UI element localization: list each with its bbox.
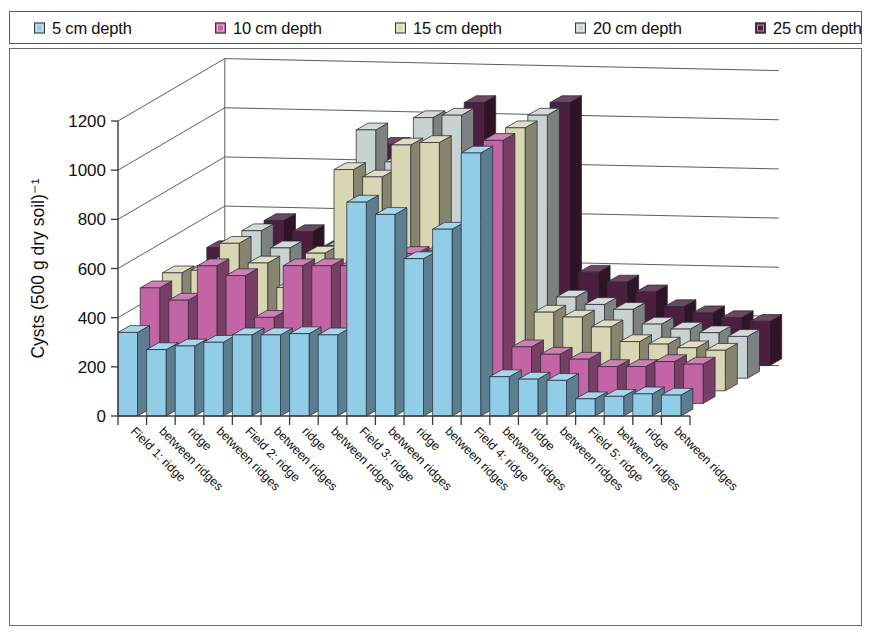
bar-side bbox=[703, 357, 715, 403]
bar-front bbox=[518, 379, 538, 416]
bar-front bbox=[204, 342, 224, 416]
legend-item-1[interactable]: 5 cm depth bbox=[34, 18, 132, 37]
y-tick-label: 1200 bbox=[68, 112, 106, 131]
gridline-depth-1000 bbox=[118, 108, 225, 170]
bar bbox=[147, 343, 179, 416]
bar bbox=[433, 222, 465, 416]
category-labels-layer: Field 1: ridgebetween ridgesridgebetween… bbox=[128, 424, 741, 493]
bar-front bbox=[232, 335, 252, 416]
bar bbox=[518, 372, 550, 416]
bar-front bbox=[576, 399, 596, 416]
bar bbox=[118, 326, 150, 416]
y-axis-title: Cysts (500 g dry soil)⁻¹ bbox=[28, 178, 48, 358]
chart-plot-area: 020040060080010001200Cysts (500 g dry so… bbox=[9, 48, 862, 626]
y-tick-label: 1000 bbox=[68, 161, 106, 180]
legend-item-3[interactable]: 15 cm depth bbox=[395, 18, 502, 37]
bar bbox=[490, 370, 522, 416]
y-tick-label: 800 bbox=[78, 210, 106, 229]
bar bbox=[661, 388, 693, 416]
gridline-back-1000 bbox=[225, 108, 779, 120]
y-tick-label: 0 bbox=[97, 407, 106, 426]
bar bbox=[404, 252, 436, 416]
bar-side bbox=[481, 146, 493, 416]
bars-layer bbox=[118, 96, 782, 416]
bar bbox=[204, 335, 236, 416]
bar-front bbox=[290, 334, 310, 416]
gridline-depth-1200 bbox=[118, 59, 225, 121]
bar-front bbox=[433, 229, 453, 416]
bar bbox=[375, 208, 407, 416]
bar bbox=[175, 339, 207, 416]
bar bbox=[633, 387, 665, 416]
legend-label: 15 cm depth bbox=[413, 18, 502, 37]
bar bbox=[604, 390, 636, 416]
legend-swatch-10cm-icon bbox=[215, 22, 226, 33]
bar-front bbox=[118, 332, 138, 416]
y-tick-label: 600 bbox=[78, 260, 106, 279]
legend-swatch-25cm-icon bbox=[755, 22, 766, 33]
bar-front bbox=[661, 395, 681, 416]
legend: 5 cm depth10 cm depth15 cm depth20 cm de… bbox=[9, 11, 862, 44]
bar-side bbox=[748, 330, 760, 379]
bar bbox=[261, 328, 293, 416]
bar-front bbox=[547, 380, 567, 416]
legend-label: 10 cm depth bbox=[233, 18, 322, 37]
bar bbox=[318, 328, 350, 416]
y-tick-label: 400 bbox=[78, 309, 106, 328]
bar-front bbox=[261, 335, 281, 416]
bar bbox=[347, 195, 379, 416]
legend-swatch-15cm-icon bbox=[395, 22, 406, 33]
legend-swatch-5cm-icon bbox=[34, 22, 45, 33]
bar-front bbox=[461, 153, 481, 416]
bar-front bbox=[175, 346, 195, 416]
bar-side bbox=[770, 315, 782, 366]
y-tick-label: 200 bbox=[78, 358, 106, 377]
legend-swatch-20cm-icon bbox=[575, 22, 586, 33]
bar-side bbox=[725, 343, 737, 390]
legend-item-2[interactable]: 10 cm depth bbox=[215, 18, 322, 37]
bar-front bbox=[375, 214, 395, 416]
gridline-depth-800 bbox=[118, 157, 225, 219]
bar-front bbox=[490, 377, 510, 416]
bar bbox=[547, 374, 579, 416]
bar-chart-3d: 020040060080010001200Cysts (500 g dry so… bbox=[10, 49, 860, 624]
bar bbox=[290, 327, 322, 416]
bar-front bbox=[147, 350, 167, 416]
bar-front bbox=[633, 394, 653, 416]
gridline-back-1200 bbox=[225, 59, 779, 71]
legend-item-4[interactable]: 20 cm depth bbox=[575, 18, 682, 37]
bar bbox=[232, 328, 264, 416]
legend-item-5[interactable]: 25 cm depth bbox=[755, 18, 862, 37]
bar-front bbox=[404, 259, 424, 416]
legend-label: 5 cm depth bbox=[52, 18, 132, 37]
bar-front bbox=[347, 202, 367, 416]
bar-front bbox=[604, 396, 624, 416]
legend-label: 20 cm depth bbox=[593, 18, 682, 37]
legend-label: 25 cm depth bbox=[773, 18, 862, 37]
bar bbox=[461, 146, 493, 416]
bar-front bbox=[318, 335, 338, 416]
